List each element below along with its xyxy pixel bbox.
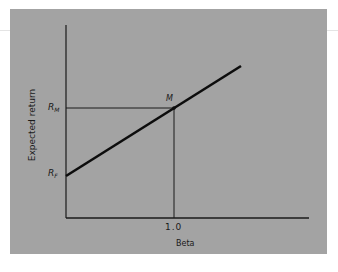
point-m-label: M bbox=[166, 94, 173, 103]
rf-tick-label: RF bbox=[48, 168, 58, 179]
market-point bbox=[172, 106, 176, 110]
x-tick-label: 1.0 bbox=[165, 222, 182, 232]
rm-tick-label: RM bbox=[48, 102, 59, 113]
rm-sub: M bbox=[54, 106, 59, 113]
security-market-line bbox=[66, 66, 241, 176]
x-axis-label: Beta bbox=[176, 239, 194, 248]
y-axis-label: Expected return bbox=[27, 89, 37, 161]
rf-sub: F bbox=[54, 172, 57, 179]
